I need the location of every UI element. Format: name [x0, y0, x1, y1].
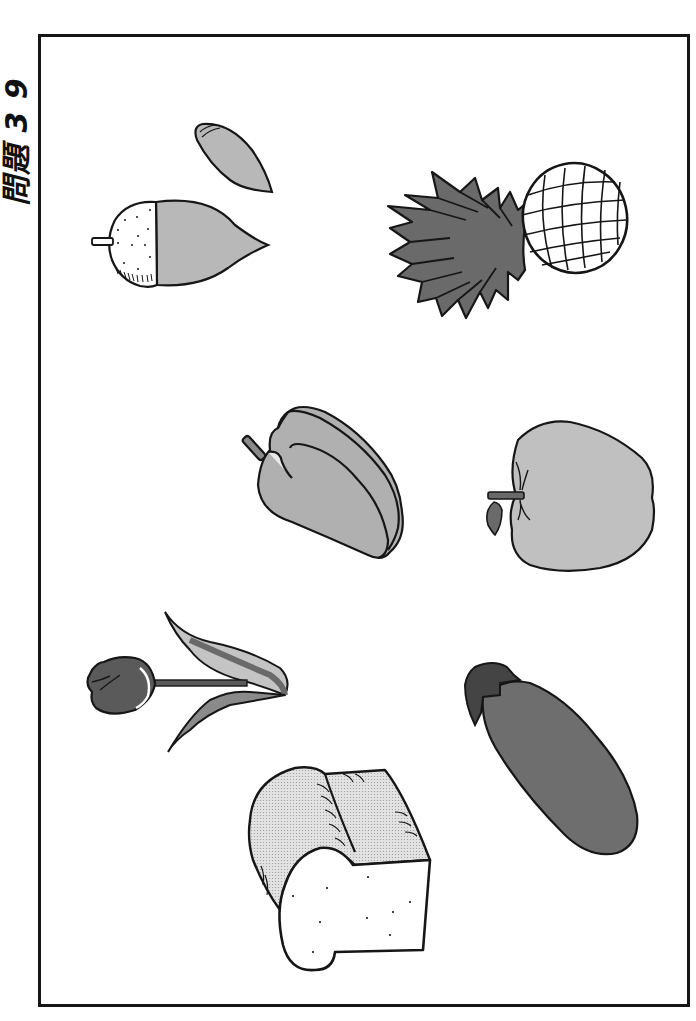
acorn-nut-icon — [195, 124, 272, 192]
apple-icon — [487, 421, 654, 570]
bell-pepper-icon — [242, 407, 403, 558]
apple-illustration — [480, 410, 660, 580]
page-title: 問題 3 9 — [0, 56, 34, 206]
bread-illustration — [235, 760, 435, 980]
pineapple-leaves-icon — [388, 172, 530, 318]
acorn-illustration — [80, 110, 280, 310]
pineapple-fruit-icon — [513, 153, 638, 282]
tulip-icon — [88, 612, 288, 752]
pineapple-illustration — [370, 140, 650, 340]
acorn-icon — [92, 201, 268, 287]
tulip-illustration — [80, 600, 300, 760]
bell-pepper-illustration — [230, 390, 430, 580]
bread-icon — [249, 767, 430, 970]
eggplant-illustration — [455, 655, 655, 865]
eggplant-icon — [465, 663, 637, 854]
